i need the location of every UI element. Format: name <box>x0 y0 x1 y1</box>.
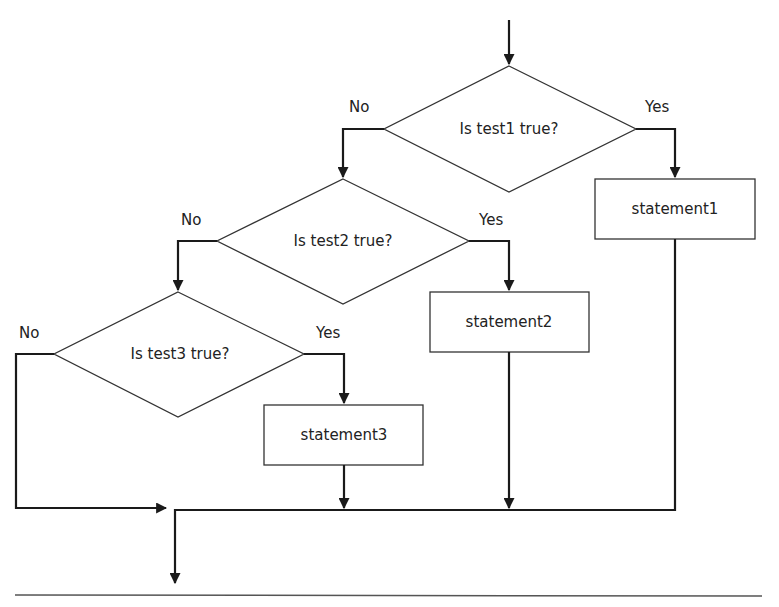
no-arrow <box>343 129 384 177</box>
yes-label: Yes <box>315 324 340 342</box>
yes-label: Yes <box>644 98 669 116</box>
decision-label: Is test3 true? <box>131 345 230 363</box>
statement3-box: statement3 <box>264 405 423 465</box>
yes-arrow <box>636 129 675 177</box>
statement-label: statement1 <box>632 200 719 218</box>
no-label: No <box>19 324 39 342</box>
no-label: No <box>349 98 369 116</box>
yes-arrow <box>469 241 509 290</box>
flowchart-diagram: Is test1 true? No Yes statement1 Is test… <box>0 0 779 607</box>
yes-label: Yes <box>478 211 503 229</box>
statement2-box: statement2 <box>430 292 589 352</box>
decision-test2: Is test2 true? <box>217 179 469 304</box>
decision-label: Is test1 true? <box>460 120 559 138</box>
statement-label: statement2 <box>466 313 553 331</box>
no-label: No <box>181 211 201 229</box>
decision-label: Is test2 true? <box>294 232 393 250</box>
decision-test1: Is test1 true? <box>384 66 636 192</box>
statement-label: statement3 <box>301 426 388 444</box>
decision-test3: Is test3 true? <box>54 292 304 417</box>
statement1-box: statement1 <box>595 179 755 239</box>
no-arrow <box>178 241 217 290</box>
yes-arrow <box>304 354 344 403</box>
bottom-rule <box>15 595 762 596</box>
